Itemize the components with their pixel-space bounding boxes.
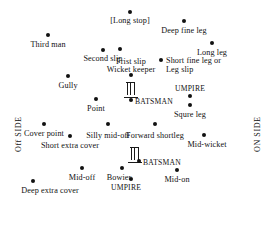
position-dot-mid-on <box>175 168 179 172</box>
position-label-bowler: Bowier <box>107 173 132 182</box>
position-label-mid-off: Mid-off <box>69 173 95 182</box>
position-dot-short-extra-cover <box>68 134 72 138</box>
position-label-mid-wicket: Mid-wicket <box>187 140 226 149</box>
position-dot-first-slip <box>118 47 122 51</box>
position-label-short-extra-cover: Short extra cover <box>41 141 99 150</box>
cricket-field-diagram: Off SIDE ON SIDE [Long stop]Deep fine le… <box>0 0 272 229</box>
stump-icon <box>134 82 135 95</box>
stump-icon <box>131 147 132 160</box>
position-label-wicket-keeper: Wicket keeper <box>107 65 155 74</box>
position-label-short-fine-leg: Short fine leg or Leg slip <box>166 56 224 74</box>
position-label-umpire-top: UMPIRE <box>175 84 205 93</box>
position-dot-long-leg <box>210 41 214 45</box>
position-label-square-leg: Squre leg <box>174 110 206 119</box>
position-label-mid-on: Mid-on <box>164 175 189 184</box>
stump-icon <box>127 82 128 95</box>
wicket-top <box>126 82 135 98</box>
position-dot-long-stop <box>128 10 132 14</box>
position-dot-silly-mid-off <box>106 122 110 126</box>
position-label-batsman-top: BATSMAN <box>135 97 173 106</box>
position-dot-deep-extra-cover <box>31 179 35 183</box>
position-label-umpire-bottom: UMPIRE <box>111 183 141 192</box>
position-dot-batsman-top <box>129 98 133 102</box>
position-label-deep-fine-leg: Deep fine leg <box>161 26 206 35</box>
position-label-third-man: Third man <box>30 40 65 49</box>
position-label-gully: Gully <box>58 81 77 90</box>
position-dot-bowler <box>120 166 124 170</box>
position-dot-forward-short-leg <box>153 122 157 126</box>
stump-icon <box>134 147 135 160</box>
position-dot-third-man <box>46 33 50 37</box>
position-label-forward-short-leg: Forward shortleg <box>126 131 184 140</box>
position-dot-batsman-bottom <box>137 159 141 163</box>
on-side-label: ON SIDE <box>253 116 262 152</box>
position-label-deep-extra-cover: Deep extra cover <box>21 186 79 195</box>
position-dot-point <box>94 97 98 101</box>
position-dot-cover-point <box>42 122 46 126</box>
position-dot-deep-fine-leg <box>182 19 186 23</box>
position-dot-second-slip <box>101 48 105 52</box>
position-dot-short-fine-leg <box>159 58 163 62</box>
position-label-cover-point: Cover point <box>24 129 64 138</box>
position-label-point: Point <box>87 104 105 113</box>
position-dot-gully <box>66 74 70 78</box>
position-dot-umpire-top <box>188 94 192 98</box>
position-dot-umpire-bottom <box>129 177 133 181</box>
position-dot-mid-wicket <box>202 133 206 137</box>
position-dot-mid-off <box>80 166 84 170</box>
off-side-label: Off SIDE <box>14 116 23 152</box>
position-label-long-stop: [Long stop] <box>110 16 150 25</box>
position-label-silly-mid-off: Silly mid-off <box>86 131 130 140</box>
position-dot-square-leg <box>188 103 192 107</box>
stump-icon <box>130 82 131 95</box>
position-label-batsman-bottom: BATSMAN <box>143 158 181 167</box>
